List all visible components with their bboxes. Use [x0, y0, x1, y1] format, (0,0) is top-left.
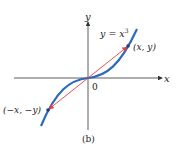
point-positive-label: (x, y) — [133, 42, 156, 52]
vector-to-positive-point — [88, 47, 127, 78]
x-axis-label: x — [164, 73, 170, 84]
figure-caption: (b) — [82, 134, 95, 144]
curve-label: y = x3 — [99, 27, 129, 39]
odd-function-diagram: y x 0 y = x3 (x, y) (−x, −y) (b) — [0, 0, 179, 159]
point-negative-label: (−x, −y) — [3, 105, 41, 115]
point-negative — [46, 108, 50, 112]
vector-to-negative-point — [49, 78, 88, 109]
point-positive — [126, 44, 130, 48]
y-axis-label: y — [84, 11, 91, 22]
origin-label: 0 — [92, 82, 98, 92]
